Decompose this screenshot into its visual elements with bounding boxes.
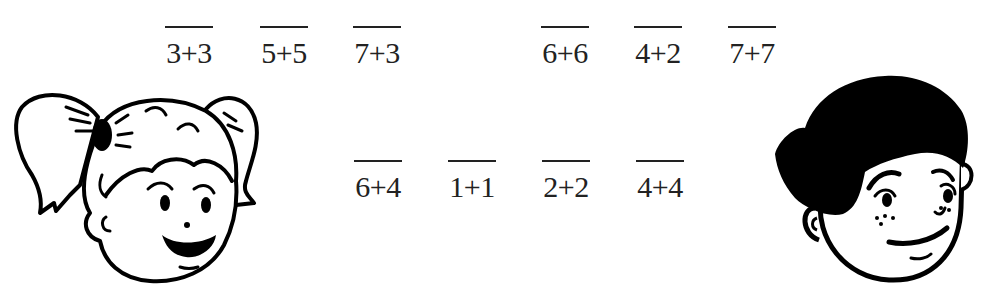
expression-6-plus-6: 6+6 [539,38,591,68]
expression-4-plus-2: 4+2 [632,38,684,68]
overline [353,26,401,28]
boy-with-freckles-icon [765,68,975,290]
overline [636,160,684,162]
expression-4-plus-4: 4+4 [634,172,686,202]
overline [541,26,589,28]
expression-1-plus-1: 1+1 [446,172,498,202]
overline [354,160,402,162]
overline [542,160,590,162]
overline [260,26,308,28]
overline [165,26,213,28]
expression-7-plus-3: 7+3 [351,38,403,68]
girl-with-pigtails-icon [10,85,265,290]
expression-2-plus-2: 2+2 [540,172,592,202]
expression-7-plus-7: 7+7 [726,38,778,68]
overline [634,26,682,28]
expression-3-plus-3: 3+3 [163,38,215,68]
expression-6-plus-4: 6+4 [352,172,404,202]
overline [728,26,776,28]
expression-5-plus-5: 5+5 [258,38,310,68]
overline [448,160,496,162]
